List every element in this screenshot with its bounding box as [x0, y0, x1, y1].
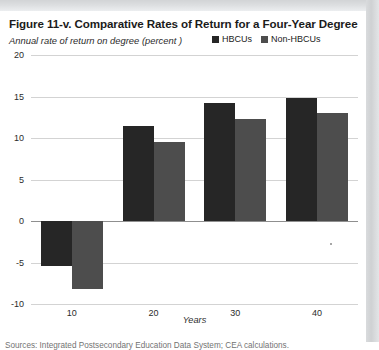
scan-speck [330, 243, 332, 245]
y-axis-tick-label: -10 [11, 299, 24, 309]
bar-hbcus-30 [204, 103, 235, 221]
y-axis-tick-label: 15 [14, 92, 24, 102]
y-axis-tick-label: 0 [19, 216, 24, 226]
legend-item-hbcus: HBCUs [212, 34, 252, 44]
legend-item-non-hbcus: Non-HBCUs [261, 34, 321, 44]
page-scan-top-band [0, 0, 379, 11]
y-axis-tick-label: 5 [19, 175, 24, 185]
gridline [31, 55, 358, 56]
bar-hbcus-40 [286, 98, 317, 221]
bar-non-hbcus-20 [154, 142, 185, 221]
figure-subtitle: Annual rate of return on degree (percent… [9, 35, 182, 46]
chart-legend: HBCUs Non-HBCUs [212, 34, 321, 44]
page-scan-right-edge [366, 0, 379, 342]
x-axis-label: Years [31, 315, 358, 325]
legend-label-hbcus: HBCUs [222, 34, 252, 44]
y-axis-tick-label: 10 [14, 133, 24, 143]
bar-hbcus-10 [41, 221, 72, 266]
figure-sources: Sources: Integrated Postsecondary Educat… [5, 341, 365, 350]
legend-label-non-hbcus: Non-HBCUs [271, 34, 321, 44]
bar-non-hbcus-30 [235, 119, 266, 221]
bar-hbcus-20 [123, 126, 154, 221]
plot-area: 20151050-5-1010203040 [31, 55, 358, 304]
gridline [31, 304, 358, 305]
y-axis-tick-label: -5 [16, 258, 24, 268]
legend-swatch-non-hbcus [261, 36, 268, 43]
bar-non-hbcus-10 [72, 221, 103, 289]
figure-page: Figure 11-v. Comparative Rates of Return… [0, 11, 366, 342]
y-axis-tick-label: 20 [14, 50, 24, 60]
legend-swatch-hbcus [212, 36, 219, 43]
bar-non-hbcus-40 [317, 113, 348, 221]
figure-title: Figure 11-v. Comparative Rates of Return… [9, 17, 359, 30]
